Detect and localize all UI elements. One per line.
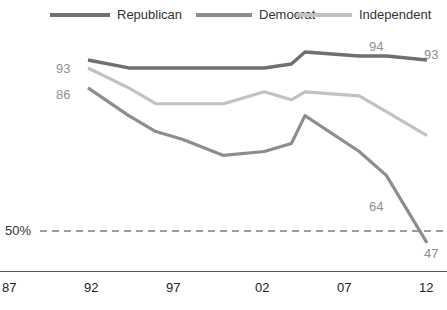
data-label-democrat-2009: 64 bbox=[369, 200, 383, 213]
x-tick-12: 12 bbox=[419, 281, 433, 294]
x-axis-line bbox=[0, 271, 447, 272]
data-label-democrat-1987: 86 bbox=[56, 88, 70, 101]
x-tick-07: 07 bbox=[337, 281, 351, 294]
x-tick-92: 92 bbox=[84, 281, 98, 294]
series-line-republican bbox=[88, 52, 427, 68]
data-label-democrat-2012: 47 bbox=[424, 247, 438, 260]
x-tick-02: 02 bbox=[255, 281, 269, 294]
chart-root: Republican Democrat Independent 93 86 94… bbox=[0, 0, 447, 310]
series-line-independent bbox=[88, 68, 427, 136]
y-axis-label-50-percent: 50% bbox=[5, 224, 31, 237]
series-line-democrat bbox=[88, 88, 427, 243]
x-tick-97: 97 bbox=[166, 281, 180, 294]
x-tick-87: 87 bbox=[2, 281, 16, 294]
data-label-republican-1987: 93 bbox=[56, 62, 70, 75]
data-label-republican-2012: 93 bbox=[424, 48, 438, 61]
data-label-republican-2009: 94 bbox=[369, 40, 383, 53]
